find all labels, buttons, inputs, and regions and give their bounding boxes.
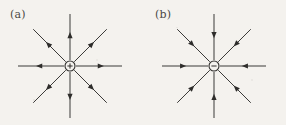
figure-canvas: (a) (b)	[0, 0, 286, 125]
arrowhead-b-0	[242, 63, 248, 68]
arrowhead-b-90	[211, 32, 216, 38]
arrowhead-b-180	[180, 63, 186, 68]
arrowhead-b-270	[211, 94, 216, 100]
panel-a	[18, 14, 122, 118]
arrowhead-a-0	[98, 63, 104, 68]
panel-b	[162, 14, 266, 118]
arrowhead-a-90	[67, 32, 72, 38]
panel-label-a: (a)	[10, 8, 26, 21]
arrowhead-a-180	[36, 63, 42, 68]
panel-label-b: (b)	[155, 8, 171, 21]
arrowhead-a-270	[67, 94, 72, 100]
field-diagram-svg	[0, 0, 286, 125]
